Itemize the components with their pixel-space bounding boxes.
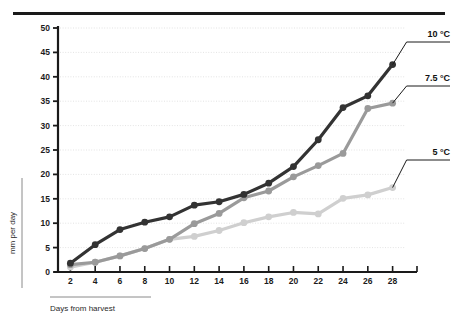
data-point <box>141 245 148 252</box>
y-tick-label: 50 <box>41 23 51 33</box>
x-tick-label: 18 <box>264 276 274 286</box>
x-tick-label: 14 <box>214 276 224 286</box>
annotation-leader-line <box>393 160 450 188</box>
annotation-leader-line <box>393 42 450 65</box>
x-axis-title: Days from harvest <box>50 304 116 313</box>
data-point <box>216 198 223 205</box>
data-point <box>166 236 173 243</box>
figure-container: 0510152025303540455024681012141618202224… <box>0 0 457 322</box>
data-point <box>389 184 396 191</box>
data-point <box>265 180 272 187</box>
y-axis-title: mm per day <box>8 212 17 254</box>
series-annotation-label: 5 °C <box>432 147 450 157</box>
data-point <box>364 191 371 198</box>
data-point <box>265 213 272 220</box>
y-tick-label: 5 <box>45 243 50 253</box>
data-point <box>191 220 198 227</box>
y-tick-label: 0 <box>45 267 50 277</box>
data-point <box>364 105 371 112</box>
data-point <box>141 219 148 226</box>
x-tick-label: 10 <box>165 276 175 286</box>
x-tick-label: 4 <box>93 276 98 286</box>
series-line-7.5c <box>70 103 392 265</box>
data-point <box>315 162 322 169</box>
y-tick-label: 40 <box>41 72 51 82</box>
y-tick-label: 30 <box>41 121 51 131</box>
x-tick-label: 12 <box>190 276 200 286</box>
data-point <box>290 163 297 170</box>
x-tick-label: 20 <box>289 276 299 286</box>
data-point <box>216 227 223 234</box>
data-point <box>315 136 322 143</box>
y-tick-label: 20 <box>41 169 51 179</box>
y-tick-label: 10 <box>41 218 51 228</box>
x-tick-label: 16 <box>239 276 249 286</box>
series-annotation-label: 10 °C <box>427 29 450 39</box>
data-point <box>240 219 247 226</box>
data-point <box>265 188 272 195</box>
data-point <box>340 150 347 157</box>
series-line-10c <box>70 65 392 264</box>
series-annotation-label: 7.5 °C <box>425 73 451 83</box>
data-point <box>290 173 297 180</box>
y-tick-label: 25 <box>41 145 51 155</box>
x-tick-label: 22 <box>314 276 324 286</box>
x-tick-label: 8 <box>142 276 147 286</box>
data-point <box>290 209 297 216</box>
x-tick-label: 26 <box>363 276 373 286</box>
x-tick-label: 28 <box>388 276 398 286</box>
y-tick-label: 45 <box>41 47 51 57</box>
data-point <box>92 259 99 266</box>
data-point <box>67 260 74 267</box>
line-chart: 0510152025303540455024681012141618202224… <box>0 0 457 322</box>
data-point <box>191 202 198 209</box>
annotation-leader-line <box>393 86 450 103</box>
y-tick-label: 15 <box>41 194 51 204</box>
data-point <box>315 211 322 218</box>
x-tick-label: 6 <box>118 276 123 286</box>
x-tick-label: 2 <box>68 276 73 286</box>
y-tick-label: 35 <box>41 96 51 106</box>
data-point <box>340 195 347 202</box>
data-point <box>117 226 124 233</box>
data-point <box>340 104 347 111</box>
data-point <box>117 252 124 259</box>
data-point <box>92 241 99 248</box>
data-point <box>364 92 371 99</box>
data-point <box>191 233 198 240</box>
data-point <box>166 213 173 220</box>
data-point <box>216 210 223 217</box>
data-point <box>240 191 247 198</box>
x-tick-label: 24 <box>338 276 348 286</box>
